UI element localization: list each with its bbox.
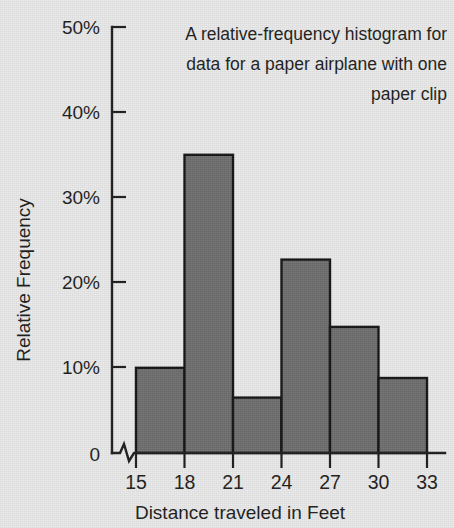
x-tick-label: 30 [368,471,390,493]
y-tick-label: 10% [62,357,100,378]
x-tick-label: 18 [174,471,196,493]
x-axis-tick-labels: 15 18 21 24 27 30 33 [125,471,438,493]
histogram-bar [330,327,379,453]
x-tick-label: 33 [416,471,438,493]
histogram-bar [136,368,185,453]
histogram-figure: A relative-frequency histogram for data … [0,0,454,528]
chart-title-line-3: paper clip [371,84,447,104]
y-axis-tick-labels: 50% 40% 30% 20% 10% 0 [62,17,100,465]
x-axis-title: Distance traveled in Feet [135,502,346,523]
y-axis-title: Relative Frequency [13,198,34,362]
histogram-bar [282,260,331,453]
x-tick-label: 27 [319,471,341,493]
x-tick-label: 21 [222,471,244,493]
y-tick-label: 30% [62,187,100,208]
y-tick-label: 40% [62,102,100,123]
chart-title: A relative-frequency histogram for data … [185,24,447,104]
histogram-chart-canvas: A relative-frequency histogram for data … [0,0,454,528]
y-axis-ticks [112,27,126,367]
x-tick-label: 15 [125,471,147,493]
x-axis-ticks [136,453,427,468]
x-tick-label: 24 [271,471,293,493]
histogram-bar [185,155,234,453]
histogram-bar [379,378,428,453]
y-tick-label: 20% [62,272,100,293]
chart-title-line-1: A relative-frequency histogram for [185,24,447,44]
y-tick-label-zero: 0 [89,444,100,465]
chart-title-line-2: data for a paper airplane with one [186,54,447,74]
histogram-bar [233,398,282,453]
histogram-bars [136,155,427,453]
y-tick-label: 50% [62,17,100,38]
